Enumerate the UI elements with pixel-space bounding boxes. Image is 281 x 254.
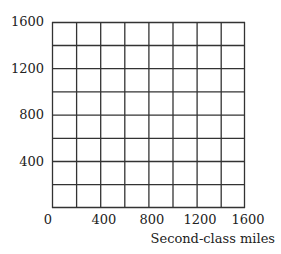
y-tick-1600: 1600 [4, 14, 44, 29]
x-tick-0: 0 [26, 212, 70, 227]
grid-lines [52, 22, 245, 208]
x-tick-800: 800 [130, 212, 174, 227]
x-tick-1200: 1200 [178, 212, 222, 227]
x-axis-label: Second-class miles [151, 231, 275, 246]
y-tick-1200: 1200 [4, 61, 44, 76]
x-tick-400: 400 [82, 212, 126, 227]
x-tick-1600: 1600 [226, 212, 270, 227]
y-tick-800: 800 [4, 107, 44, 122]
y-tick-400: 400 [4, 154, 44, 169]
grid-plot-area [52, 22, 245, 208]
